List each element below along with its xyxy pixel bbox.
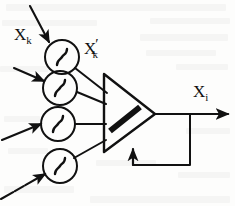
schematic-drawing <box>0 0 235 206</box>
input-arrow-3 <box>2 124 41 140</box>
connection-line-2 <box>77 92 106 104</box>
input-arrow-1 <box>30 6 49 42</box>
feedback-loop <box>133 114 190 165</box>
input-arrow-4 <box>1 174 45 199</box>
sigmoid-block-1 <box>45 40 79 74</box>
summing-amplifier <box>104 74 155 152</box>
figure-canvas: Xk X′k Xi <box>0 0 235 206</box>
label-input-subscript: k <box>26 34 32 46</box>
connection-line-1 <box>75 68 107 93</box>
label-output-signal: Xi <box>193 83 208 100</box>
sigmoid-block-3 <box>41 107 75 141</box>
label-output-base: X <box>193 82 205 101</box>
label-input-base: X <box>14 25 26 44</box>
label-output-subscript: i <box>205 91 208 103</box>
connection-line-4 <box>74 140 106 158</box>
label-input-signal: Xk <box>14 26 32 43</box>
sigmoid-block-2 <box>43 71 77 105</box>
sigmoid-block-4 <box>43 149 77 183</box>
label-activated-subscript: k <box>93 48 99 60</box>
label-activated-signal: X′k <box>84 40 98 57</box>
input-arrow-2 <box>14 68 44 81</box>
